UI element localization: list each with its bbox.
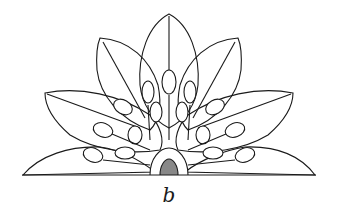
receptacle [150, 148, 188, 175]
flower-diagram [0, 0, 338, 212]
figure-label: b [0, 183, 338, 207]
